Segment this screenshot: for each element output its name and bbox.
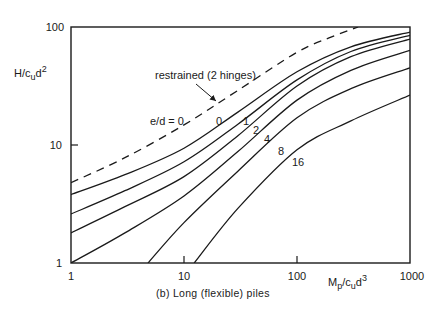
curve-label-8: 8: [278, 145, 284, 157]
curve-restrained-2-hinges-: [71, 27, 358, 183]
curve-label-16: 16: [292, 156, 304, 168]
curve-label-0: 0: [216, 115, 222, 127]
y-tick-label-100: 100: [46, 21, 64, 33]
curve-e-d-0: [71, 32, 410, 195]
curves-group: [71, 27, 410, 263]
y-tick-label-10: 10: [50, 139, 62, 151]
x-axis-title: Mp/cud3: [328, 273, 367, 291]
curve-label-4: 4: [264, 133, 270, 145]
chart-caption: (b) Long (flexible) piles: [156, 287, 270, 299]
curve-label-1: 1: [243, 115, 249, 127]
x-tick-label-1: 1: [68, 270, 74, 282]
curve-label-2: 2: [253, 124, 259, 136]
x-tick-label-1000: 1000: [400, 270, 424, 282]
ed-prefix-label: e/d = 0: [150, 115, 184, 127]
x-tick-label-100: 100: [288, 270, 306, 282]
curve-e-d-4: [71, 50, 410, 263]
plot-frame: [71, 27, 410, 263]
x-tick-label-10: 10: [178, 270, 190, 282]
chart: 1 10 100 1000 1 10 100 H/cud2 Mp/cud3 (b…: [0, 0, 438, 313]
y-tick-label-1: 1: [56, 257, 62, 269]
restrained-label: restrained (2 hinges): [155, 69, 256, 81]
restrained-arrow-icon: [196, 84, 216, 101]
curve-e-d-1: [71, 35, 410, 214]
y-axis-title: H/cud2: [14, 64, 47, 82]
